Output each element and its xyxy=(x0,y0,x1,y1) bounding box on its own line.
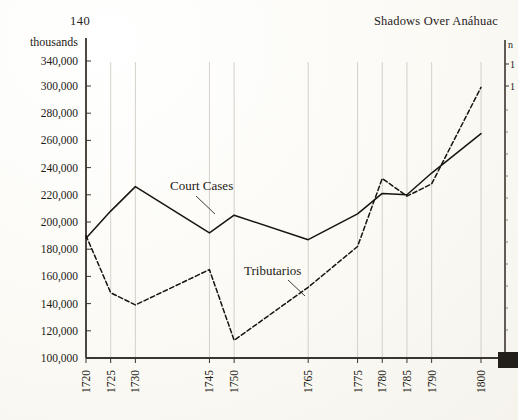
x-tick-label: 1785 xyxy=(401,370,413,393)
y-axis-tick-labels: thousands340,000300,000280,000260,000240… xyxy=(30,35,91,365)
x-tick-label: 1750 xyxy=(228,370,240,393)
annotation-leader-line xyxy=(288,280,305,296)
secondary-axis-tick-fragment: 1 xyxy=(510,59,515,70)
secondary-axis-unit-fragment: n xyxy=(508,39,513,50)
y-tick-label: 160,000 xyxy=(41,270,79,283)
y-tick-label: 300,000 xyxy=(41,80,79,93)
x-tick-label: 1780 xyxy=(376,370,388,393)
x-tick-label: 1765 xyxy=(302,370,314,393)
series-line-court-cases xyxy=(86,134,481,240)
y-tick-label: 220,000 xyxy=(41,189,79,202)
figure-line-chart: thousands340,000300,000280,000260,000240… xyxy=(0,0,518,420)
annotation-court-cases: Court Cases xyxy=(170,178,233,193)
y-tick-label: 240,000 xyxy=(41,162,79,175)
y-tick-label: 340,000 xyxy=(41,55,79,68)
x-tick-label: 1725 xyxy=(105,370,117,393)
annotation-leader-line xyxy=(196,196,215,214)
x-tick-label: 1790 xyxy=(426,370,438,393)
scan-edge-shadow xyxy=(498,352,518,368)
chart-gridlines xyxy=(86,62,481,358)
y-tick-label: 120,000 xyxy=(41,325,79,338)
chart-series-lines xyxy=(86,87,481,340)
x-tick-label: 1720 xyxy=(80,370,92,393)
y-tick-label: 260,000 xyxy=(41,134,79,147)
x-tick-label: 1800 xyxy=(475,370,487,393)
x-tick-label: 1730 xyxy=(129,370,141,393)
annotation-tributarios: Tributarios xyxy=(244,263,301,278)
y-tick-label: 100,000 xyxy=(41,352,79,365)
y-tick-label: 200,000 xyxy=(41,216,79,229)
x-tick-label: 1745 xyxy=(203,370,215,393)
x-axis-tick-labels: 1720172517301745175017651775178017851790… xyxy=(80,358,487,393)
secondary-axis-cropped: n11 xyxy=(498,39,518,368)
x-tick-label: 1775 xyxy=(352,370,364,393)
series-line-tributarios xyxy=(86,87,481,340)
y-tick-label: 280,000 xyxy=(41,107,79,120)
chart-axes xyxy=(86,38,512,358)
y-axis-unit-label: thousands xyxy=(30,35,78,49)
y-tick-label: 180,000 xyxy=(41,243,79,256)
secondary-axis-tick-fragment: 1 xyxy=(510,81,515,92)
chart-svg: thousands340,000300,000280,000260,000240… xyxy=(0,0,518,420)
y-tick-label: 140,000 xyxy=(41,298,79,311)
